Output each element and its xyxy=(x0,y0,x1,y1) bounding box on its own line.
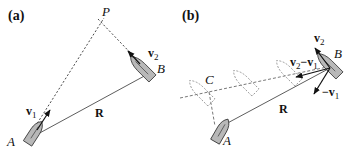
panel-b: (b) C R A B v2 xyxy=(180,8,343,148)
ship-b-label: B xyxy=(157,61,165,76)
closest-approach-line xyxy=(209,92,215,126)
point-c-label: C xyxy=(205,72,214,87)
separation-line-r xyxy=(36,74,148,135)
velocity-1-label: v1 xyxy=(26,104,37,120)
ship-a-b-label: A xyxy=(222,133,231,148)
relative-velocity-label: v2−v1 xyxy=(290,55,318,71)
relative-motion-diagram: (a) P R A v1 B v2 (b) C xyxy=(0,0,354,160)
relative-course-line xyxy=(180,66,332,98)
velocity-1-arrow xyxy=(37,110,50,130)
neg-velocity-1-label: −v1 xyxy=(322,85,339,101)
velocity-2-label-b: v2 xyxy=(314,31,325,47)
course-line-a xyxy=(33,18,104,130)
separation-label-b: R xyxy=(279,102,288,116)
panel-a-label: (a) xyxy=(8,8,25,24)
separation-label: R xyxy=(95,106,104,120)
ship-a xyxy=(23,119,46,146)
separation-line-r xyxy=(222,68,330,126)
ghost-ship xyxy=(230,67,259,96)
point-p-label: P xyxy=(101,4,110,19)
ship-a-label: A xyxy=(6,134,15,149)
panel-a: (a) P R A v1 B v2 xyxy=(6,4,165,149)
velocity-2-label: v2 xyxy=(148,46,159,62)
ship-b-b-label: B xyxy=(334,46,342,61)
panel-b-label: (b) xyxy=(182,8,199,24)
